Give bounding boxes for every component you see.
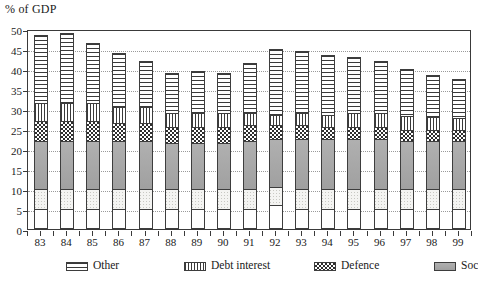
- y-axis-tick-label: 25: [11, 125, 22, 136]
- bar-segment-education: [165, 189, 179, 209]
- bar-segment-other: [321, 55, 335, 115]
- bar-segment-debt-interest: [165, 113, 179, 127]
- bar-segment-social-security: [400, 141, 414, 189]
- bar-segment-debt-interest: [112, 107, 126, 123]
- bar-88[interactable]: [165, 73, 179, 229]
- bar-segment-defence: [217, 127, 231, 143]
- legend-label: Debt interest: [211, 260, 270, 272]
- bar-segment-defence: [347, 127, 361, 139]
- bar-segment-health: [347, 209, 361, 229]
- bar-97[interactable]: [400, 69, 414, 229]
- bar-segment-social-security: [321, 139, 335, 189]
- bar-segment-debt-interest: [347, 113, 361, 127]
- bar-segment-other: [426, 75, 440, 117]
- bar-87[interactable]: [139, 61, 153, 229]
- legend-item-debt-interest[interactable]: Debt interest: [184, 260, 314, 272]
- bar-segment-social-security: [34, 141, 48, 189]
- bar-segment-social-security: [112, 141, 126, 189]
- x-axis-tick-label: 96: [374, 237, 385, 248]
- x-axis-minor-tick-mark: [158, 231, 159, 236]
- bar-segment-social-security: [374, 139, 388, 189]
- x-axis-tick-label: 83: [35, 237, 46, 248]
- bar-segment-health: [400, 209, 414, 229]
- x-axis-minor-tick-mark: [340, 231, 341, 236]
- bar-segment-debt-interest: [191, 113, 205, 127]
- legend-swatch-icon: [66, 262, 88, 271]
- legend-swatch-icon: [434, 262, 456, 271]
- bar-segment-debt-interest: [86, 103, 100, 121]
- bar-segment-social-security: [269, 139, 283, 187]
- bar-segment-debt-interest: [400, 116, 414, 130]
- bar-86[interactable]: [112, 53, 126, 229]
- y-axis: 05101520253035404550: [0, 30, 27, 231]
- bar-segment-other: [112, 53, 126, 107]
- bars-layer: [28, 31, 470, 229]
- legend-item-social-security[interactable]: Social Security: [434, 260, 478, 272]
- bar-segment-education: [269, 187, 283, 205]
- bar-segment-education: [347, 189, 361, 209]
- bar-84[interactable]: [60, 33, 74, 229]
- bar-segment-debt-interest: [295, 113, 309, 125]
- legend-item-defence[interactable]: Defence: [314, 260, 434, 272]
- bar-83[interactable]: [34, 35, 48, 229]
- plot-area: [27, 30, 471, 230]
- bar-segment-defence: [452, 130, 466, 141]
- bar-segment-health: [86, 209, 100, 229]
- bar-segment-debt-interest: [139, 107, 153, 123]
- bar-segment-debt-interest: [321, 115, 335, 127]
- bar-segment-other: [165, 73, 179, 113]
- bar-90[interactable]: [217, 73, 231, 229]
- y-axis-tick-label: 10: [11, 185, 22, 196]
- legend-swatch-icon: [184, 262, 206, 271]
- bar-95[interactable]: [347, 57, 361, 229]
- bar-98[interactable]: [426, 75, 440, 229]
- bar-segment-defence: [165, 127, 179, 143]
- bar-segment-debt-interest: [217, 113, 231, 127]
- bar-segment-debt-interest: [374, 113, 388, 127]
- bar-89[interactable]: [191, 71, 205, 229]
- bar-94[interactable]: [321, 55, 335, 229]
- bar-segment-health: [243, 209, 257, 229]
- bar-segment-defence: [86, 121, 100, 141]
- bar-segment-debt-interest: [269, 115, 283, 125]
- bar-96[interactable]: [374, 61, 388, 229]
- bar-segment-social-security: [295, 139, 309, 189]
- x-axis-minor-tick-mark: [471, 231, 472, 236]
- bar-segment-social-security: [86, 141, 100, 189]
- bar-segment-other: [34, 35, 48, 103]
- y-axis-tick-label: 40: [11, 65, 22, 76]
- legend-item-other[interactable]: Other: [66, 260, 184, 272]
- bar-93[interactable]: [295, 51, 309, 229]
- bar-85[interactable]: [86, 43, 100, 229]
- bar-segment-debt-interest: [60, 103, 74, 121]
- bar-segment-other: [295, 51, 309, 113]
- y-axis-tick-label: 50: [11, 25, 22, 36]
- bar-99[interactable]: [452, 79, 466, 229]
- bar-segment-other: [217, 73, 231, 113]
- x-axis-tick-label: 85: [87, 237, 98, 248]
- x-axis-minor-tick-mark: [53, 231, 54, 236]
- x-axis-tick-label: 87: [139, 237, 150, 248]
- bar-segment-defence: [34, 121, 48, 141]
- bar-segment-defence: [112, 123, 126, 141]
- x-axis-minor-tick-mark: [184, 231, 185, 236]
- y-axis-tick-label: 20: [11, 145, 22, 156]
- bar-92[interactable]: [269, 49, 283, 229]
- chart-legend: OtherDebt interestDefenceSocial Security…: [66, 258, 446, 274]
- bar-segment-defence: [426, 130, 440, 141]
- bar-segment-debt-interest: [34, 103, 48, 121]
- x-axis-tick-label: 98: [426, 237, 437, 248]
- x-axis-minor-tick-mark: [236, 231, 237, 236]
- bar-segment-health: [165, 209, 179, 229]
- bar-segment-social-security: [452, 141, 466, 189]
- bar-91[interactable]: [243, 63, 257, 229]
- bar-segment-defence: [243, 125, 257, 141]
- x-axis-minor-tick-mark: [79, 231, 80, 236]
- bar-segment-defence: [374, 127, 388, 139]
- x-axis-tick-label: 84: [61, 237, 72, 248]
- x-axis-tick-label: 99: [452, 237, 463, 248]
- y-axis-tick-label: 0: [17, 225, 23, 236]
- bar-segment-health: [295, 209, 309, 229]
- x-axis-minor-tick-mark: [419, 231, 420, 236]
- bar-segment-other: [243, 63, 257, 113]
